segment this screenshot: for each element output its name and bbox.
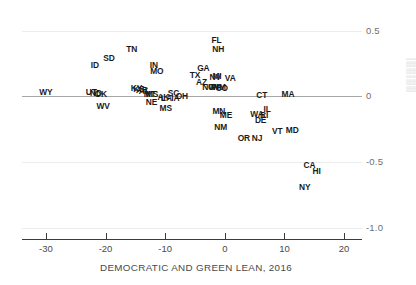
y-axis-tick-label: -0.5	[366, 156, 383, 167]
data-point-label: OH	[176, 91, 188, 101]
scatter-chart: 0.50-0.5-1.0WYUTNDOKIDSDWVTNKYKSARALMOIN…	[0, 0, 416, 285]
x-axis-line	[22, 239, 362, 240]
x-axis-tick-label: -30	[39, 243, 53, 254]
x-axis-tick-mark	[344, 233, 345, 240]
data-point-label: OR	[238, 133, 250, 143]
y-axis-tick-label: 0.5	[366, 25, 380, 36]
data-point-label: NJ	[252, 133, 263, 143]
data-point-label: NE	[146, 97, 157, 107]
zero-gridline	[22, 96, 362, 97]
data-point-label: ME	[220, 110, 232, 120]
data-point-label: MA	[282, 89, 295, 99]
data-point-label: NM	[214, 122, 227, 132]
y-axis-tick-label: 0	[366, 90, 371, 101]
x-axis-tick-label: 10	[279, 243, 290, 254]
plot-area: 0.50-0.5-1.0WYUTNDOKIDSDWVTNKYKSARALMOIN…	[0, 0, 416, 285]
data-point-label: NY	[299, 182, 310, 192]
gridline	[22, 31, 362, 32]
x-axis-tick-mark	[165, 233, 166, 240]
data-point-label: DE	[255, 115, 266, 125]
x-axis-tick-mark	[46, 233, 47, 240]
y-axis-tick-label: -1.0	[366, 222, 383, 233]
data-point-label: OK	[95, 89, 107, 99]
data-point-label: TN	[126, 44, 137, 54]
x-axis-tick-mark	[284, 233, 285, 240]
data-point-label: GA	[197, 63, 209, 73]
data-point-label: VA	[225, 73, 236, 83]
x-axis-label: DEMOCRATIC AND GREEN LEAN, 2016	[0, 262, 392, 273]
x-axis-tick-label: 20	[339, 243, 350, 254]
x-axis-tick-label: 0	[222, 243, 227, 254]
data-point-label: WY	[39, 87, 52, 97]
data-point-label: MS	[160, 103, 172, 113]
data-point-label: WV	[96, 101, 109, 111]
gridline	[22, 228, 362, 229]
data-point-label: MD	[286, 125, 299, 135]
x-axis-tick-label: -10	[158, 243, 172, 254]
data-point-label: MI	[212, 71, 221, 81]
data-point-label: VT	[272, 126, 283, 136]
x-axis-tick-label: -20	[99, 243, 113, 254]
data-point-label: CO	[216, 83, 228, 93]
data-point-label: HI	[313, 166, 321, 176]
data-point-label: IN	[150, 60, 158, 70]
data-point-label: SD	[103, 53, 114, 63]
x-axis-tick-mark	[225, 233, 226, 240]
data-point-label: NH	[212, 44, 224, 54]
clipped-margin-text: 0000000000000000000000000000000000000000…	[406, 58, 416, 223]
data-point-label: CT	[256, 90, 267, 100]
data-point-label: ID	[91, 60, 99, 70]
x-axis-tick-mark	[106, 233, 107, 240]
